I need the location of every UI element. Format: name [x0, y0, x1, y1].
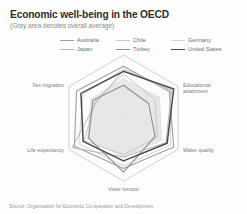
axis-label-voter-turnout: Voter turnout	[108, 186, 139, 192]
chart-subtitle: (Gray area denotes overall average)	[10, 22, 114, 29]
legend-item-australia[interactable]: Australia	[60, 36, 116, 44]
axis-label-educational-attainment: Educationalattainment	[183, 82, 211, 94]
legend-item-label: Germany	[188, 36, 211, 44]
axis-label-net-migration: Net migration	[32, 82, 64, 88]
legend-swatch-icon	[116, 40, 130, 41]
chart-title: Economic well-being in the OECD	[10, 9, 169, 20]
legend-swatch-icon	[171, 40, 185, 41]
legend-item-label: Australia	[77, 36, 99, 44]
source-note: Source: Organisation for Economic Co-ope…	[9, 204, 153, 209]
chart-card: Economic well-being in the OECD (Gray ar…	[0, 0, 247, 214]
radar-chart: Employment rateEducationalattainmentWate…	[0, 50, 247, 200]
legend-item-germany[interactable]: Germany	[171, 36, 245, 44]
legend-item-label: Chile	[133, 36, 146, 44]
axis-label-life-expectancy: Life expectancy	[27, 147, 64, 153]
axis-label-water-quality: Water quality	[183, 147, 214, 153]
radar-chart-svg: Employment rateEducationalattainmentWate…	[0, 50, 247, 200]
legend-item-chile[interactable]: Chile	[116, 36, 171, 44]
legend-swatch-icon	[60, 40, 74, 41]
